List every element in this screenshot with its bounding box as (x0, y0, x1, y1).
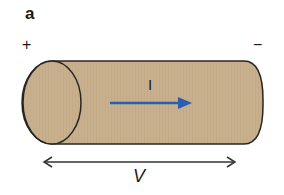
cylinder-end-face (23, 61, 81, 144)
voltage-label: V (133, 166, 145, 187)
panel-label: a (25, 4, 34, 24)
positive-terminal-label: + (22, 36, 31, 54)
current-label: I (148, 76, 152, 93)
negative-terminal-label: − (253, 36, 262, 54)
